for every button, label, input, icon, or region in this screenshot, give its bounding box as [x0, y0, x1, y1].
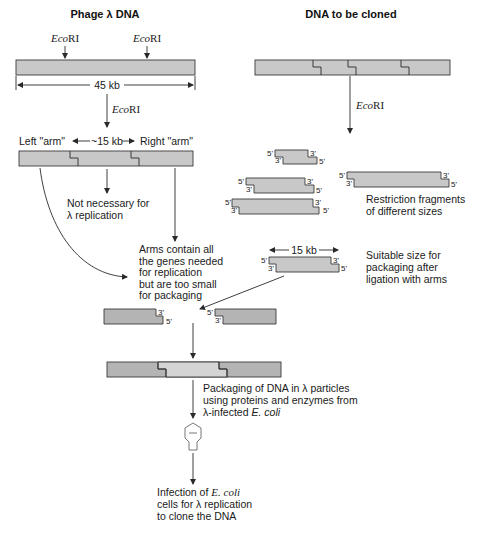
svg-text:5': 5': [339, 171, 345, 180]
restriction-fragment-large: 5' 3' 3' 5': [339, 171, 457, 189]
svg-text:5': 5': [267, 149, 273, 158]
arms-note-line1: Arms contain all: [139, 243, 214, 255]
packaging-note-line1: Packaging of DNA in λ particles: [203, 382, 350, 394]
svg-text:3': 3': [231, 206, 237, 215]
svg-text:5': 5': [451, 180, 457, 189]
suitable-fragment: 5' 3' 3' 5': [261, 256, 347, 273]
cloning-diagram: Phage λ DNA DNA to be cloned EcoRI EcoRI…: [0, 0, 485, 552]
svg-text:3': 3': [310, 149, 316, 158]
svg-text:5': 5': [341, 264, 347, 273]
right-arm-label: Right "arm": [140, 135, 193, 147]
recombinant-dna-bar: [107, 362, 281, 377]
svg-text:3': 3': [443, 171, 449, 180]
svg-text:5': 5': [316, 186, 322, 195]
arms-note-line2: the genes needed: [139, 255, 223, 267]
suitable-note-line3: ligation with arms: [366, 273, 447, 285]
svg-text:3': 3': [246, 185, 252, 194]
right-arm-fragment: 5' 3': [207, 308, 276, 325]
left-arm-label: Left "arm": [19, 135, 65, 147]
title-dna-to-be-cloned: DNA to be cloned: [305, 8, 396, 20]
not-necessary-line2: λ replication: [67, 209, 123, 221]
svg-text:5': 5': [238, 177, 244, 186]
svg-text:5': 5': [207, 308, 213, 317]
svg-text:3': 3': [215, 316, 221, 325]
svg-text:5': 5': [261, 256, 267, 265]
suitable-note-line2: packaging after: [366, 261, 438, 273]
arms-note-line3: for replication: [139, 266, 202, 278]
lambda-digested-bar: [19, 151, 193, 166]
svg-text:3': 3': [158, 308, 164, 317]
svg-text:5': 5': [166, 317, 172, 326]
infection-note-line1: Infection of E. coli: [157, 486, 240, 498]
svg-text:3': 3': [315, 198, 321, 207]
lambda-phage-particle-icon: [185, 423, 201, 450]
svg-text:5': 5': [319, 157, 325, 166]
suitable-length-label: 15 kb: [291, 244, 317, 256]
infection-note-line2: cells for λ replication: [157, 498, 252, 510]
left-arm-curve-arrow: [40, 168, 127, 277]
packaging-note-line3: λ-infected E. coli: [203, 406, 281, 418]
middle-length-label: ~15 kb: [91, 135, 123, 147]
fragments-note-line1: Restriction fragments: [366, 193, 465, 205]
svg-text:5': 5': [323, 206, 329, 215]
arms-note-line5: for packaging: [139, 289, 202, 301]
lambda-length-label: 45 kb: [94, 79, 120, 91]
ecori-site-label-right: EcoRI: [132, 32, 161, 44]
svg-text:3': 3': [333, 256, 339, 265]
svg-text:3': 3': [346, 179, 352, 188]
infection-note-line3: to clone the DNA: [157, 510, 236, 522]
ecori-digest-label-lambda: EcoRI: [111, 103, 140, 115]
svg-text:3': 3': [307, 177, 313, 186]
svg-text:3': 3': [268, 264, 274, 273]
not-necessary-line1: Not necessary for: [67, 197, 150, 209]
fragments-note-line2: of different sizes: [366, 205, 442, 217]
arms-note-line4: but are too small: [139, 278, 217, 290]
restriction-fragment-small: 5' 3' 3' 5': [267, 149, 325, 166]
svg-text:3': 3': [275, 156, 281, 165]
suitable-note-line1: Suitable size for: [366, 249, 441, 261]
title-phage-lambda-dna: Phage λ DNA: [70, 8, 139, 20]
target-dna-bar: [255, 60, 450, 75]
ecori-digest-label-target: EcoRI: [355, 99, 384, 111]
left-arm-fragment: 3' 5': [104, 308, 172, 326]
lambda-dna-full-bar: [16, 60, 195, 75]
restriction-fragment-medium: 5' 3' 3' 5': [238, 177, 322, 195]
restriction-fragment-medium-long: 5' 3' 3' 5': [225, 198, 329, 215]
ecori-site-label-left: EcoRI: [50, 32, 79, 44]
packaging-note-line2: using proteins and enzymes from: [203, 394, 358, 406]
